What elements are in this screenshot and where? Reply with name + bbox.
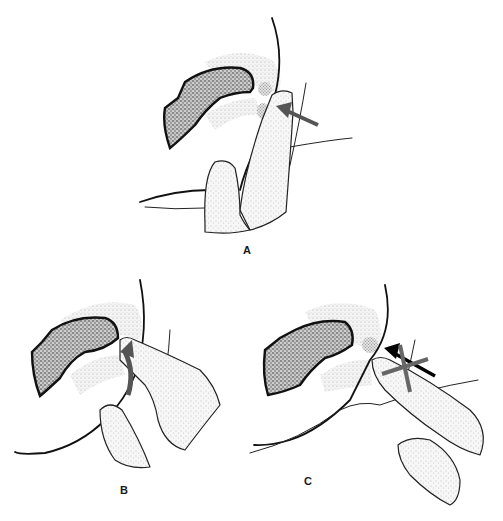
panel-b [15, 280, 220, 468]
panel-c-thumb [398, 438, 460, 505]
panel-c-halo-lower [320, 360, 372, 392]
panel-a [140, 18, 352, 233]
panel-c-nodule [362, 337, 378, 353]
panel-b-label: B [120, 484, 128, 496]
figure-canvas [0, 0, 503, 521]
panel-c [250, 285, 483, 505]
panel-b-thumb [100, 405, 150, 468]
panel-c-label: C [304, 475, 312, 487]
panel-a-line-horizontal [290, 138, 352, 147]
panel-a-lip-curve [140, 190, 210, 202]
panel-a-lip-lower [145, 207, 205, 209]
panel-a-nodule-upper [258, 82, 272, 96]
panel-b-halo-lower [70, 355, 125, 395]
panel-b-arrow-shaft [125, 352, 131, 395]
panel-a-label: A [243, 244, 251, 256]
